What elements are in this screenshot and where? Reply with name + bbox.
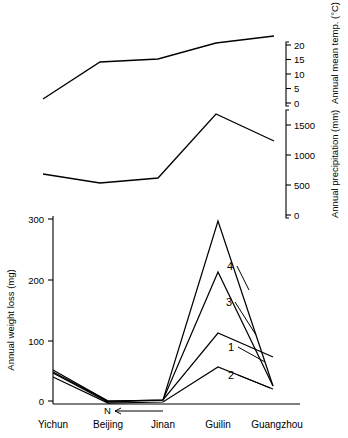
precipitation-tick-label-1000: 1000 <box>294 150 315 161</box>
weight-loss-axis-title: Annual weight loss (mg) <box>5 269 16 370</box>
category-label-guangzhou: Guangzhou <box>251 419 303 430</box>
series-leader-4 <box>237 266 249 290</box>
figure-panel: 20 15 10 5 0 Annual mean temp. (°C) 1500… <box>0 0 348 438</box>
series-label-3: 3 <box>226 296 232 308</box>
category-label-guilin: Guilin <box>205 419 231 430</box>
series-label-1: 1 <box>228 341 234 353</box>
series-label-4: 4 <box>227 260 233 272</box>
weight-loss-chart: 300 200 100 0 Annual weight loss (mg) 4 … <box>5 214 303 431</box>
temperature-curve <box>43 36 274 99</box>
category-label-jinan: Jinan <box>151 419 175 430</box>
category-label-beijing: Beijing <box>93 419 123 430</box>
series-line-2 <box>53 367 273 403</box>
series-label-2: 2 <box>228 369 234 381</box>
temperature-tick-label-10: 10 <box>294 69 305 80</box>
temperature-axis: 20 15 10 5 0 Annual mean temp. (°C) <box>286 2 340 109</box>
temperature-tick-label-5: 5 <box>294 83 299 94</box>
weight-loss-tick-label-300: 300 <box>28 214 44 225</box>
north-direction-label: N <box>104 405 111 416</box>
precipitation-tick-label-1500: 1500 <box>294 120 315 131</box>
weight-loss-tick-label-0: 0 <box>39 396 44 407</box>
precipitation-curve <box>43 114 274 183</box>
precipitation-tick-label-500: 500 <box>294 180 310 191</box>
temperature-axis-title: Annual mean temp. (°C) <box>329 2 340 104</box>
series-line-1 <box>53 333 273 402</box>
series-line-3 <box>53 272 273 401</box>
precipitation-axis-spine <box>286 110 289 218</box>
series-leader-2 <box>238 375 270 388</box>
precipitation-chart: 1500 1000 500 0 Annual precipitation (mm… <box>43 110 340 221</box>
precipitation-axis: 1500 1000 500 0 Annual precipitation (mm… <box>286 110 340 221</box>
precipitation-tick-label-0: 0 <box>294 210 299 221</box>
weight-loss-tick-label-100: 100 <box>28 336 44 347</box>
series-line-4 <box>53 221 273 401</box>
arrow-left-icon <box>115 408 163 414</box>
figure-canvas: 20 15 10 5 0 Annual mean temp. (°C) 1500… <box>0 0 348 438</box>
temperature-tick-label-20: 20 <box>294 40 305 51</box>
category-label-yichun: Yichun <box>38 419 68 430</box>
precipitation-axis-title: Annual precipitation (mm) <box>329 110 340 218</box>
temperature-chart: 20 15 10 5 0 Annual mean temp. (°C) <box>43 2 340 109</box>
weight-loss-tick-label-200: 200 <box>28 275 44 286</box>
temperature-tick-label-0: 0 <box>294 98 299 109</box>
temperature-tick-label-15: 15 <box>294 54 305 65</box>
